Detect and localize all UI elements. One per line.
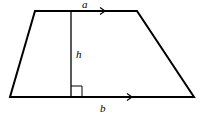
label-b: b (100, 102, 106, 114)
trapezoid-outline (10, 11, 194, 97)
label-h: h (76, 48, 82, 60)
right-angle-marker (71, 86, 82, 97)
trapezoid-diagram: a h b (0, 0, 205, 120)
label-a: a (82, 0, 88, 10)
